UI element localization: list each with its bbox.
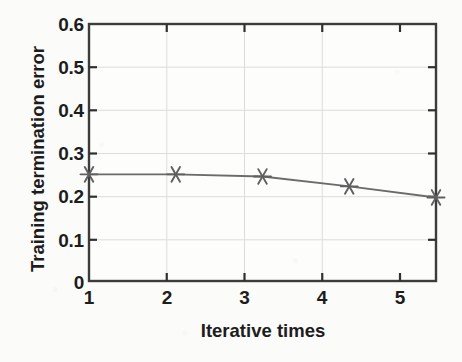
x-tick-label-3: 3 [225, 288, 265, 307]
plot-background [89, 24, 436, 281]
chart-figure: 0.6 0.5 0.4 0.3 0.2 0.1 0 1 2 3 4 5 Trai… [0, 0, 462, 362]
x-tick-label-2: 2 [147, 288, 187, 307]
y-axis-title: Training termination error [27, 39, 49, 279]
x-tick-label-4: 4 [302, 288, 342, 307]
x-axis-tick-labels: 1 2 3 4 5 [0, 288, 462, 314]
y-tick-label-0.6: 0.6 [20, 15, 84, 34]
x-axis-title: Iterative times [89, 320, 437, 342]
x-tick-label-5: 5 [380, 288, 420, 307]
x-tick-label-1: 1 [69, 288, 109, 307]
